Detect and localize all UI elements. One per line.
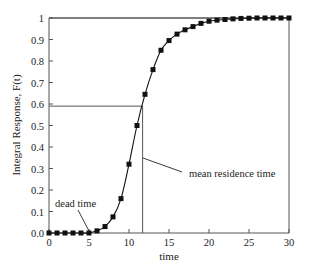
data-point-marker — [79, 231, 84, 236]
data-point-marker — [231, 16, 236, 21]
x-tick-label: 0 — [46, 237, 51, 248]
data-point-marker — [103, 224, 108, 229]
data-point-marker — [199, 21, 204, 26]
data-point-marker — [95, 228, 100, 233]
data-point-marker — [47, 231, 52, 236]
y-tick-label: 0.7 — [31, 78, 44, 89]
data-point-marker — [135, 123, 140, 128]
data-point-marker — [263, 16, 268, 21]
x-tick-label: 15 — [164, 237, 175, 248]
data-point-marker — [87, 231, 92, 236]
data-point-marker — [151, 67, 156, 72]
data-point-marker — [215, 18, 220, 23]
mean-residence-label: mean residence time — [189, 168, 276, 179]
y-tick-label: 0.1 — [31, 207, 44, 218]
y-tick-label: 0.0 — [31, 228, 44, 239]
data-point-marker — [287, 16, 292, 21]
data-point-marker — [111, 214, 116, 219]
y-tick-label: 0.2 — [31, 185, 44, 196]
x-tick-label: 10 — [124, 237, 135, 248]
x-tick-label: 5 — [86, 237, 91, 248]
x-ticks: 051015202530 — [46, 229, 294, 248]
data-point-marker — [183, 27, 188, 32]
annotation-mean-residence-time: mean residence time — [143, 158, 276, 179]
data-point-marker — [71, 231, 76, 236]
data-point-marker — [167, 38, 172, 43]
data-point-marker — [143, 92, 148, 97]
data-point-marker — [127, 162, 132, 167]
y-tick-label: 0.5 — [31, 121, 44, 132]
data-point-marker — [223, 17, 228, 22]
integral-response-chart: 0.00.10.20.30.40.50.60.70.80.91 05101520… — [0, 0, 309, 271]
y-tick-label: 0.6 — [31, 99, 44, 110]
data-point-marker — [159, 48, 164, 53]
y-tick-label: 0.4 — [31, 142, 45, 153]
data-point-marker — [175, 32, 180, 37]
y-tick-label: 0.9 — [31, 35, 44, 46]
annotation-dead-time: dead time — [55, 198, 96, 231]
data-point-marker — [247, 16, 252, 21]
data-point-marker — [255, 16, 260, 21]
data-point-marker — [119, 196, 124, 201]
data-point-marker — [271, 16, 276, 21]
data-point-marker — [279, 16, 284, 21]
x-tick-label: 25 — [244, 237, 255, 248]
data-point-marker — [55, 231, 60, 236]
dead-time-label: dead time — [55, 198, 96, 209]
x-tick-label: 20 — [204, 237, 215, 248]
y-tick-label: 0.3 — [31, 164, 44, 175]
y-ticks: 0.00.10.20.30.40.50.60.70.80.91 — [31, 13, 53, 239]
y-axis-label: Integral Response, F(t) — [10, 74, 23, 175]
y-tick-label: 1 — [39, 13, 44, 24]
data-point-marker — [63, 231, 68, 236]
mean-residence-pointer — [143, 158, 182, 172]
y-tick-label: 0.8 — [31, 56, 44, 67]
data-point-marker — [207, 19, 212, 24]
data-point-marker — [191, 24, 196, 29]
x-axis-label: time — [159, 250, 179, 262]
data-point-marker — [239, 16, 244, 21]
dead-time-pointer — [78, 210, 89, 231]
x-tick-label: 30 — [284, 237, 295, 248]
